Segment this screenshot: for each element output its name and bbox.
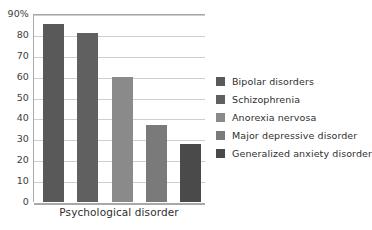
bar <box>180 144 201 202</box>
legend-swatch-icon <box>216 149 225 158</box>
y-axis: 0102030405060708090% <box>0 0 33 202</box>
y-tick-label: 70 <box>17 51 29 61</box>
legend-label: Major depressive disorder <box>232 130 357 141</box>
legend: Bipolar disordersSchizophreniaAnorexia n… <box>216 72 372 162</box>
y-tick-label: 60 <box>17 72 29 82</box>
bar <box>43 24 64 202</box>
legend-label: Anorexia nervosa <box>232 112 316 123</box>
y-tick-label: 80 <box>17 30 29 40</box>
bar <box>77 33 98 202</box>
y-tick-label: 30 <box>17 134 29 144</box>
y-tick-label: 0 <box>23 197 29 207</box>
y-tick-label: 40 <box>17 113 29 123</box>
legend-label: Generalized anxiety disorder <box>232 148 372 159</box>
legend-item: Bipolar disorders <box>216 72 372 90</box>
bar <box>112 77 133 202</box>
legend-item: Schizophrenia <box>216 90 372 108</box>
plot-area <box>33 14 205 202</box>
y-tick-label: 20 <box>17 155 29 165</box>
legend-swatch-icon <box>216 77 225 86</box>
y-tick-label: 50 <box>17 93 29 103</box>
y-tick-label: 90% <box>8 9 29 19</box>
bars-layer <box>34 15 205 202</box>
legend-label: Bipolar disorders <box>232 76 314 87</box>
legend-swatch-icon <box>216 131 225 140</box>
x-axis-title: Psychological disorder <box>33 206 205 218</box>
axis-baseline <box>34 203 205 205</box>
legend-item: Anorexia nervosa <box>216 108 372 126</box>
legend-item: Major depressive disorder <box>216 126 372 144</box>
legend-item: Generalized anxiety disorder <box>216 144 372 162</box>
y-tick-label: 10 <box>17 176 29 186</box>
legend-swatch-icon <box>216 95 225 104</box>
legend-label: Schizophrenia <box>232 94 300 105</box>
legend-swatch-icon <box>216 113 225 122</box>
bar <box>146 125 167 202</box>
